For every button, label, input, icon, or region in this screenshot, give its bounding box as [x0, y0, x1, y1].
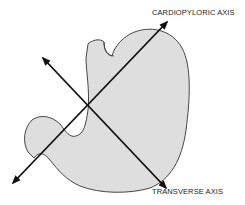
stomach-axes-diagram: CARDIOPYLORIC AXIS TRANSVERSE AXIS	[0, 0, 245, 205]
cardiopyloric-axis-label: CARDIOPYLORIC AXIS	[152, 8, 235, 17]
transverse-axis-label: TRANSVERSE AXIS	[152, 187, 223, 196]
stomach-illustration	[0, 0, 245, 205]
